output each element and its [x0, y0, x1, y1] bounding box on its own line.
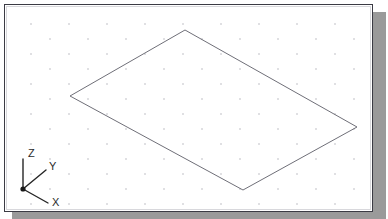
grid-dot [182, 173, 184, 175]
grid-dot [30, 173, 32, 175]
grid-dot [144, 143, 146, 145]
ucs-axis-label-x: X [52, 196, 60, 208]
grid-dot [106, 173, 108, 175]
grid-dot [334, 53, 336, 55]
grid-dot [163, 158, 165, 160]
grid-dot [353, 158, 355, 160]
grid-dot [125, 158, 127, 160]
grid-dot [182, 143, 184, 145]
grid-dot [125, 188, 127, 190]
grid-dot [163, 98, 165, 100]
grid-dot [87, 68, 89, 70]
grid-dot [49, 38, 51, 40]
grid-dot [220, 83, 222, 85]
grid-dot [296, 173, 298, 175]
grid-dot [315, 38, 317, 40]
grid-dot [182, 83, 184, 85]
grid-dot [258, 203, 260, 205]
grid-dot [315, 188, 317, 190]
ucs-axis-y [23, 170, 46, 189]
snap-grid [30, 23, 355, 205]
grid-dot [277, 38, 279, 40]
grid-dot [334, 23, 336, 25]
grid-dot [68, 173, 70, 175]
ucs-axis-label-y: Y [49, 160, 57, 172]
grid-dot [68, 53, 70, 55]
grid-dot [201, 188, 203, 190]
grid-dot [144, 83, 146, 85]
grid-dot [258, 83, 260, 85]
grid-dot [296, 203, 298, 205]
grid-dot [182, 113, 184, 115]
geometry-layer[interactable] [70, 30, 357, 190]
grid-dot [334, 203, 336, 205]
grid-dot [87, 188, 89, 190]
grid-dot [49, 68, 51, 70]
grid-dot [315, 68, 317, 70]
grid-dot [30, 53, 32, 55]
grid-dot [125, 98, 127, 100]
grid-dot [144, 203, 146, 205]
grid-dot [87, 98, 89, 100]
grid-dot [315, 98, 317, 100]
ucs-axis-label-z: Z [28, 147, 35, 159]
grid-dot [49, 98, 51, 100]
grid-dot [220, 173, 222, 175]
grid-dot [201, 128, 203, 130]
grid-dot [353, 188, 355, 190]
grid-dot [277, 188, 279, 190]
grid-dot [49, 188, 51, 190]
isometric-rectangle[interactable] [70, 30, 357, 190]
grid-dot [258, 23, 260, 25]
grid-dot [106, 23, 108, 25]
grid-dot [106, 83, 108, 85]
grid-dot [239, 128, 241, 130]
grid-dot [277, 98, 279, 100]
grid-dot [68, 23, 70, 25]
grid-dot [87, 128, 89, 130]
grid-dot [258, 113, 260, 115]
grid-dot [277, 158, 279, 160]
grid-dot [87, 38, 89, 40]
grid-dot [163, 68, 165, 70]
grid-dot [258, 173, 260, 175]
ucs-icon: ZYX [20, 147, 60, 208]
drawing-area[interactable]: ZYX [5, 5, 372, 211]
grid-dot [30, 203, 32, 205]
grid-dot [30, 83, 32, 85]
grid-dot [163, 188, 165, 190]
grid-dot [68, 203, 70, 205]
grid-dot [163, 128, 165, 130]
grid-dot [106, 53, 108, 55]
grid-dot [296, 23, 298, 25]
grid-dot [296, 143, 298, 145]
grid-dot [315, 158, 317, 160]
grid-dot [182, 53, 184, 55]
grid-dot [144, 113, 146, 115]
grid-dot [125, 68, 127, 70]
grid-dot [182, 203, 184, 205]
grid-dot [353, 68, 355, 70]
grid-dot [87, 158, 89, 160]
grid-dot [106, 113, 108, 115]
grid-dot [106, 143, 108, 145]
grid-dot [144, 173, 146, 175]
grid-dot [125, 128, 127, 130]
grid-dot [30, 143, 32, 145]
grid-dot [296, 83, 298, 85]
grid-dot [239, 98, 241, 100]
grid-dot [220, 53, 222, 55]
grid-dot [315, 128, 317, 130]
grid-dot [220, 113, 222, 115]
grid-dot [68, 83, 70, 85]
grid-dot [30, 113, 32, 115]
drawing-canvas[interactable]: ZYX [5, 5, 372, 211]
viewport-frame[interactable]: ZYX [4, 4, 373, 212]
grid-dot [258, 143, 260, 145]
ucs-axis-x [23, 189, 48, 203]
ucs-origin-marker [20, 186, 25, 191]
grid-dot [277, 68, 279, 70]
grid-dot [258, 53, 260, 55]
grid-dot [220, 203, 222, 205]
grid-dot [201, 98, 203, 100]
